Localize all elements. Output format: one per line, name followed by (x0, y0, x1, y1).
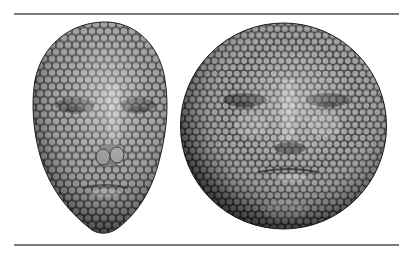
face-mesh-image (30, 20, 170, 240)
figure-canvas (0, 0, 414, 254)
disk-mapping-image (178, 20, 390, 234)
